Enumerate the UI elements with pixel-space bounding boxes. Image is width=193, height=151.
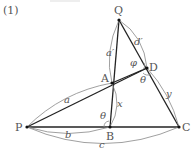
label-B: B xyxy=(106,130,114,143)
label-d-prime: d′ xyxy=(134,36,143,47)
label-c: c xyxy=(99,139,105,150)
label-b: b xyxy=(65,129,71,140)
label-phi-D: φ xyxy=(130,57,137,68)
point-A xyxy=(110,81,113,84)
point-P xyxy=(25,125,28,128)
label-A: A xyxy=(100,72,110,85)
label-y: y xyxy=(165,88,172,99)
label-theta-B: θ xyxy=(100,110,106,121)
geometry-diagram: (1) Q P A D B C a a′ b c d′ x y θ θ φ xyxy=(0,0,193,151)
problem-label: (1) xyxy=(3,4,19,17)
segment-PD xyxy=(27,68,147,127)
label-Q: Q xyxy=(114,4,123,17)
label-theta-D: θ xyxy=(140,74,146,85)
label-D: D xyxy=(149,61,158,74)
label-a: a xyxy=(64,94,70,105)
label-a-prime: a′ xyxy=(106,47,115,58)
label-C: C xyxy=(182,121,190,134)
label-P: P xyxy=(15,121,23,134)
point-C xyxy=(177,125,180,128)
segment-QB xyxy=(110,20,119,127)
label-x: x xyxy=(117,98,123,109)
point-B xyxy=(108,125,111,128)
angle-theta-B-mark xyxy=(104,121,109,127)
point-Q xyxy=(117,18,120,21)
